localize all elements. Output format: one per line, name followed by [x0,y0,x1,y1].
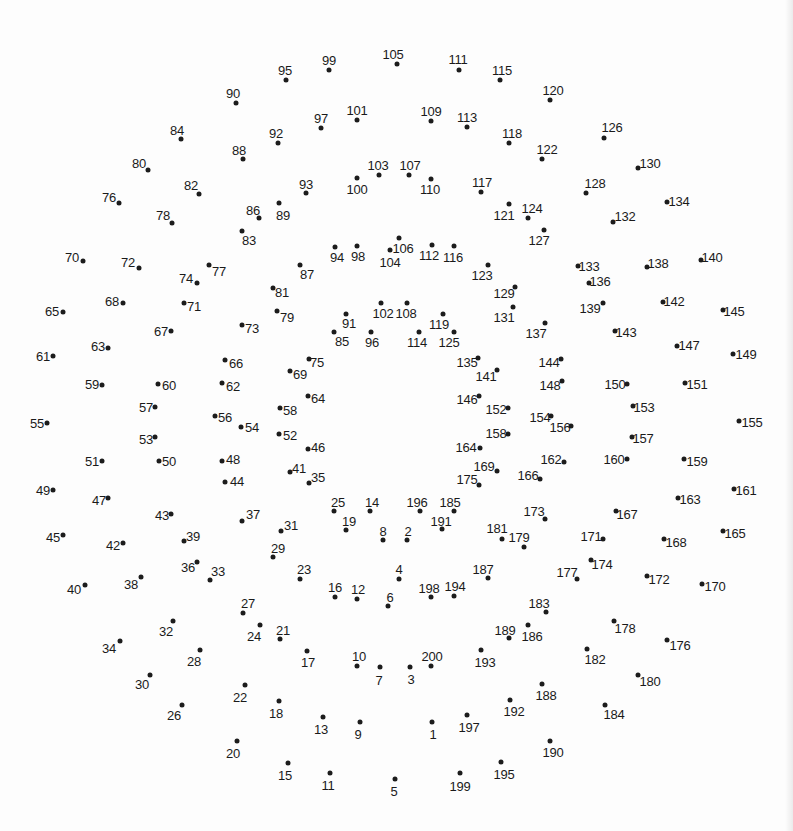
puzzle-dot-42[interactable] [121,541,126,546]
puzzle-dot-116[interactable] [452,244,457,249]
puzzle-dot-46[interactable] [306,447,311,452]
puzzle-dot-78[interactable] [170,221,175,226]
puzzle-dot-121[interactable] [507,202,512,207]
puzzle-dot-181[interactable] [500,537,505,542]
puzzle-dot-101[interactable] [355,118,360,123]
puzzle-dot-68[interactable] [121,301,126,306]
puzzle-dot-11[interactable] [328,771,333,776]
puzzle-dot-45[interactable] [61,533,66,538]
puzzle-dot-13[interactable] [321,715,326,720]
puzzle-dot-194[interactable] [452,594,457,599]
puzzle-dot-24[interactable] [258,623,263,628]
puzzle-dot-160[interactable] [625,457,630,462]
puzzle-dot-107[interactable] [407,173,412,178]
puzzle-dot-70[interactable] [81,259,86,264]
puzzle-dot-49[interactable] [51,488,56,493]
puzzle-dot-20[interactable] [235,739,240,744]
puzzle-dot-54[interactable] [239,425,244,430]
puzzle-dot-128[interactable] [584,191,589,196]
puzzle-dot-124[interactable] [526,216,531,221]
puzzle-dot-28[interactable] [198,648,203,653]
puzzle-dot-58[interactable] [278,406,283,411]
puzzle-dot-67[interactable] [169,329,174,334]
puzzle-dot-111[interactable] [457,68,462,73]
puzzle-dot-44[interactable] [223,480,228,485]
puzzle-dot-22[interactable] [243,683,248,688]
puzzle-dot-162[interactable] [562,460,567,465]
puzzle-dot-10[interactable] [355,664,360,669]
puzzle-dot-37[interactable] [240,519,245,524]
puzzle-dot-50[interactable] [157,459,162,464]
puzzle-dot-74[interactable] [195,281,200,286]
puzzle-dot-31[interactable] [279,529,284,534]
puzzle-dot-190[interactable] [548,739,553,744]
puzzle-dot-15[interactable] [286,761,291,766]
puzzle-dot-179[interactable] [522,545,527,550]
puzzle-dot-193[interactable] [479,648,484,653]
puzzle-dot-60[interactable] [156,382,161,387]
puzzle-dot-90[interactable] [234,101,239,106]
puzzle-dot-103[interactable] [377,173,382,178]
puzzle-dot-61[interactable] [51,354,56,359]
puzzle-dot-5[interactable] [393,777,398,782]
puzzle-dot-164[interactable] [478,446,483,451]
puzzle-dot-71[interactable] [182,301,187,306]
puzzle-dot-195[interactable] [499,760,504,765]
puzzle-dot-72[interactable] [137,266,142,271]
puzzle-dot-17[interactable] [305,649,310,654]
puzzle-dot-122[interactable] [540,157,545,162]
puzzle-dot-126[interactable] [602,136,607,141]
puzzle-dot-92[interactable] [276,141,281,146]
puzzle-dot-105[interactable] [395,62,400,67]
puzzle-dot-97[interactable] [319,126,324,131]
puzzle-dot-76[interactable] [117,201,122,206]
puzzle-dot-62[interactable] [220,381,225,386]
puzzle-dot-115[interactable] [498,78,503,83]
puzzle-dot-79[interactable] [275,309,280,314]
puzzle-dot-199[interactable] [458,771,463,776]
puzzle-dot-12[interactable] [355,597,360,602]
puzzle-dot-64[interactable] [306,394,311,399]
puzzle-dot-57[interactable] [153,405,158,410]
puzzle-dot-36[interactable] [195,560,200,565]
puzzle-dot-47[interactable] [106,496,111,501]
puzzle-dot-51[interactable] [100,459,105,464]
puzzle-dot-192[interactable] [508,698,513,703]
puzzle-dot-7[interactable] [378,665,383,670]
puzzle-dot-55[interactable] [45,421,50,426]
puzzle-dot-66[interactable] [223,358,228,363]
puzzle-dot-186[interactable] [526,623,531,628]
puzzle-dot-120[interactable] [548,98,553,103]
puzzle-dot-77[interactable] [207,263,212,268]
puzzle-dot-4[interactable] [397,577,402,582]
puzzle-dot-1[interactable] [430,720,435,725]
puzzle-dot-3[interactable] [408,665,413,670]
puzzle-dot-117[interactable] [479,190,484,195]
puzzle-dot-53[interactable] [153,435,158,440]
puzzle-dot-73[interactable] [240,323,245,328]
puzzle-dot-139[interactable] [601,301,606,306]
puzzle-dot-109[interactable] [429,119,434,124]
puzzle-dot-89[interactable] [277,201,282,206]
puzzle-dot-95[interactable] [284,78,289,83]
puzzle-dot-43[interactable] [169,512,174,517]
puzzle-dot-197[interactable] [465,713,470,718]
puzzle-dot-80[interactable] [146,168,151,173]
puzzle-dot-118[interactable] [507,141,512,146]
puzzle-dot-100[interactable] [355,176,360,181]
puzzle-dot-169[interactable] [495,469,500,474]
puzzle-dot-113[interactable] [465,125,470,130]
puzzle-dot-27[interactable] [241,611,246,616]
puzzle-dot-200[interactable] [429,664,434,669]
puzzle-dot-56[interactable] [213,414,218,419]
puzzle-dot-40[interactable] [83,583,88,588]
puzzle-dot-23[interactable] [298,577,303,582]
puzzle-dot-188[interactable] [540,682,545,687]
puzzle-dot-34[interactable] [118,639,123,644]
puzzle-dot-69[interactable] [288,369,293,374]
puzzle-dot-18[interactable] [277,699,282,704]
puzzle-dot-99[interactable] [327,68,332,73]
puzzle-dot-9[interactable] [358,720,363,725]
puzzle-dot-63[interactable] [106,346,111,351]
puzzle-dot-38[interactable] [139,575,144,580]
